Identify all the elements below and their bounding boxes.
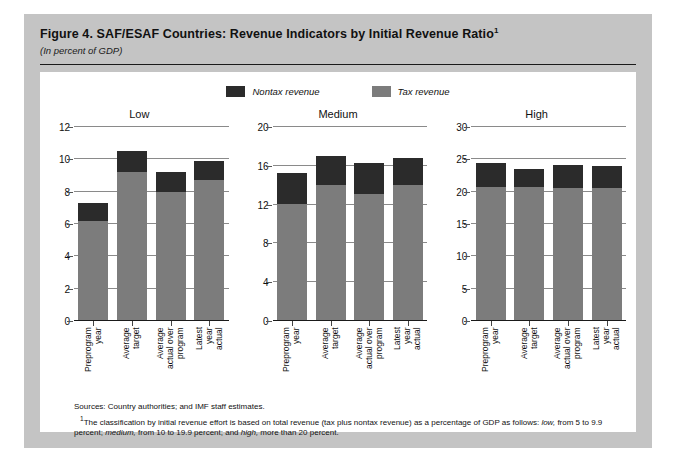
bar-group [471,127,626,321]
stacked-bar [156,172,186,321]
x-axis-tick-mark [587,321,626,326]
x-axis-label: Latestyearactual [393,327,422,395]
legend-label: Tax revenue [398,86,450,97]
stacked-bar [553,165,583,321]
bar-segment-tax-revenue [316,185,346,321]
x-axis-labels: PreprogramyearAveragetargetAverageactual… [74,327,229,395]
y-axis-tick-mark [464,256,470,257]
x-axis-label-slot: Latestyearactual [389,327,428,395]
legend-item: Tax revenue [372,86,450,97]
bar-segment-tax-revenue [592,188,622,321]
chart-panels: Low024681012PreprogramyearAveragetargetA… [40,108,636,398]
x-axis-label-slot: Preprogramyear [74,327,113,395]
figure-container: Figure 4. SAF/ESAF Countries: Revenue In… [24,14,652,448]
panel-title: High [437,108,636,120]
bar-segment-nontax-revenue [194,161,224,180]
bar-segment-tax-revenue [476,187,506,321]
x-axis-label-line: actual [214,327,224,395]
bar-segment-nontax-revenue [393,158,423,185]
x-axis-label-slot: Averagetarget [113,327,152,395]
x-axis-label: Averageactual overprogram [156,327,185,395]
y-axis-tick-mark [67,256,73,257]
bar-segment-nontax-revenue [316,156,346,185]
x-axis-label-slot: Averagetarget [510,327,549,395]
y-axis-tick-mark [67,224,73,225]
x-axis-label-slot: Averagetarget [311,327,350,395]
x-axis-label-slot: Latestyearactual [190,327,229,395]
bar-slot [273,127,312,321]
x-axis-label-line: program [176,327,186,395]
y-axis-tick-mark [67,321,73,322]
x-axis-tick-mark [471,321,510,326]
panel-title: Low [40,108,239,120]
y-axis-tick-mark [67,127,73,128]
y-axis-tick-mark [266,282,272,283]
bar-slot [190,127,229,321]
bar-group [273,127,428,321]
x-axis-label-line: year [93,327,103,395]
bar-slot [350,127,389,321]
x-axis-ticks [74,321,229,326]
x-axis-label: Averagetarget [520,327,540,395]
y-axis-tick-mark [67,159,73,160]
stacked-bar [117,151,147,321]
bar-segment-nontax-revenue [514,169,544,187]
x-axis-tick-mark [113,321,152,326]
footer-note-medium: medium, [105,428,136,437]
x-axis-label-line: target [529,327,539,395]
stacked-bar [354,163,384,321]
x-axis-labels: PreprogramyearAveragetargetAverageactual… [273,327,428,395]
bar-segment-tax-revenue [194,180,224,321]
plot-area: 051015202530 [471,127,626,321]
x-axis-label: Averagetarget [321,327,341,395]
bar-slot [510,127,549,321]
y-axis-tick-mark [266,205,272,206]
legend-item: Nontax revenue [226,86,319,97]
y-axis-tick-mark [266,243,272,244]
footer-note-high: high, [241,428,258,437]
x-axis-tick-mark [190,321,229,326]
bar-group [74,127,229,321]
x-axis-label-slot: Averageactual overprogram [151,327,190,395]
bar-segment-nontax-revenue [156,172,186,191]
y-axis-tick-mark [464,192,470,193]
x-axis-label-slot: Preprogramyear [273,327,312,395]
x-axis-label: Averagetarget [122,327,142,395]
y-axis-tick-mark [266,321,272,322]
y-axis-tick-mark [464,224,470,225]
bar-segment-nontax-revenue [592,166,622,188]
stacked-bar [277,173,307,321]
x-axis-label: Averageactual overprogram [553,327,582,395]
x-axis-label-line: target [331,327,341,395]
bar-slot [471,127,510,321]
figure-title-footnote-marker: 1 [494,26,499,35]
y-axis-tick-mark [266,166,272,167]
y-axis-tick-mark [464,289,470,290]
bar-segment-tax-revenue [553,188,583,321]
stacked-bar [194,161,224,321]
bar-slot [74,127,113,321]
title-divider [40,64,636,65]
y-axis-tick-mark [67,289,73,290]
x-axis-tick-mark [350,321,389,326]
panel-title: Medium [239,108,438,120]
x-axis-label-slot: Averageactual overprogram [549,327,588,395]
bar-segment-tax-revenue [514,187,544,321]
x-axis-label: Preprogramyear [84,327,104,395]
y-axis-tick-mark [266,127,272,128]
x-axis-label: Latestyearactual [195,327,224,395]
bar-slot [389,127,428,321]
plot-area: 048121620 [273,127,428,321]
y-axis-tick-mark [67,192,73,193]
stacked-bar [316,156,346,321]
x-axis-label: Preprogramyear [481,327,501,395]
legend-label: Nontax revenue [252,86,319,97]
footer-note-part3: from 10 to 19.9 percent; and [136,428,241,437]
chart-legend: Nontax revenueTax revenue [40,86,636,97]
x-axis-tick-mark [74,321,113,326]
figure-footer: Sources: Country authorities; and IMF st… [74,402,622,439]
x-axis-label-slot: Latestyearactual [587,327,626,395]
chart-panel-high: High051015202530PreprogramyearAveragetar… [437,108,636,398]
x-axis-ticks [273,321,428,326]
chart-panel-low: Low024681012PreprogramyearAveragetargetA… [40,108,239,398]
